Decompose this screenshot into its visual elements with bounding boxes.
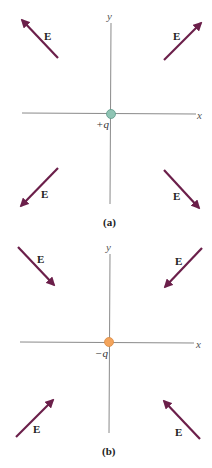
field-label: E: [44, 30, 51, 42]
panel-b: y x E E E E −q (b): [16, 241, 202, 458]
field-label: E: [175, 255, 182, 267]
field-arrow-top-right: [165, 248, 202, 287]
x-axis-label: x: [195, 338, 201, 350]
field-label: E: [175, 426, 182, 438]
field-arrow-bottom-left: [21, 168, 58, 206]
negative-charge: [105, 338, 114, 347]
field-arrow-top-left: [22, 20, 58, 58]
electric-field-diagram: y x E E E E +q (a) y x E E E E −q (b): [0, 0, 212, 468]
x-axis-label: x: [196, 109, 202, 121]
field-label: E: [173, 30, 180, 42]
panel-caption: (b): [102, 445, 116, 458]
panel-a: y x E E E E +q (a): [21, 10, 202, 229]
charge-label: +q: [96, 118, 109, 130]
field-arrow-top-left: [18, 247, 54, 285]
y-axis-label: y: [106, 10, 112, 22]
field-arrow-bottom-right: [164, 170, 199, 208]
field-label: E: [173, 190, 180, 202]
field-arrow-top-right: [164, 23, 201, 60]
field-label: E: [37, 253, 44, 265]
charge-label: −q: [95, 347, 108, 359]
panel-caption: (a): [103, 216, 116, 229]
y-axis-label: y: [105, 241, 111, 253]
field-label: E: [33, 423, 40, 435]
field-label: E: [41, 188, 48, 200]
